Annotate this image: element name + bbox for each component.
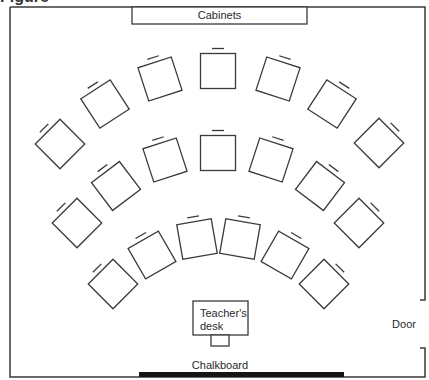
teachers-desk-label-1: Teacher's bbox=[200, 307, 247, 319]
desk-surface bbox=[334, 198, 383, 247]
desk-surface bbox=[299, 259, 348, 308]
chalkboard-label: Chalkboard bbox=[192, 359, 248, 371]
student-desk-back-7 bbox=[354, 115, 407, 168]
student-desks bbox=[32, 49, 408, 309]
student-desk-back-6 bbox=[308, 76, 359, 129]
chair-mark bbox=[98, 164, 108, 171]
desk-surface bbox=[88, 259, 137, 308]
desk-surface bbox=[295, 161, 344, 210]
student-desk-middle-6 bbox=[295, 157, 347, 210]
cabinets: Cabinets bbox=[132, 7, 307, 24]
desk-surface bbox=[249, 138, 293, 182]
teachers-desk-label-2: desk bbox=[200, 320, 224, 332]
student-desk-front-5 bbox=[261, 227, 311, 279]
chair-mark bbox=[279, 56, 290, 60]
desk-surface bbox=[52, 198, 101, 247]
chair-mark bbox=[187, 216, 199, 218]
chair-mark bbox=[291, 233, 301, 239]
desk-surface bbox=[81, 80, 129, 128]
desk-surface bbox=[354, 118, 403, 167]
teachers-chair bbox=[211, 335, 229, 346]
chair-mark bbox=[136, 233, 146, 239]
desk-surface bbox=[201, 54, 236, 89]
student-desk-back-2 bbox=[78, 76, 129, 129]
desk-surface bbox=[261, 231, 309, 279]
student-desk-front-2 bbox=[126, 227, 176, 279]
chair-mark bbox=[152, 137, 163, 141]
student-desk-back-4 bbox=[201, 49, 236, 89]
chair-mark bbox=[329, 164, 339, 171]
student-desk-middle-2 bbox=[88, 157, 140, 210]
desk-surface bbox=[138, 57, 182, 101]
chair-mark bbox=[93, 264, 101, 272]
chair-mark bbox=[336, 264, 344, 272]
door-label: Door bbox=[392, 318, 416, 330]
desk-surface bbox=[177, 219, 218, 260]
student-desk-middle-4 bbox=[201, 131, 236, 171]
desk-surface bbox=[308, 80, 356, 128]
student-desk-front-6 bbox=[299, 256, 352, 309]
student-desk-front-3 bbox=[176, 214, 217, 259]
chair-mark bbox=[391, 123, 399, 131]
chair-mark bbox=[238, 216, 250, 218]
student-desk-middle-5 bbox=[249, 133, 295, 182]
chair-mark bbox=[147, 56, 158, 60]
desk-surface bbox=[143, 138, 187, 182]
desk-surface bbox=[91, 161, 140, 210]
classroom-floor-plan: Cabinets Teacher's desk Door Chalkboard bbox=[0, 0, 429, 380]
chair-mark bbox=[88, 82, 98, 89]
chair-mark bbox=[57, 203, 65, 211]
chair-mark bbox=[339, 82, 349, 89]
desk-surface bbox=[35, 119, 84, 168]
desk-surface bbox=[256, 57, 300, 101]
chalkboard-bar bbox=[139, 372, 344, 377]
chair-mark bbox=[371, 203, 379, 211]
teachers-desk: Teacher's desk bbox=[193, 301, 248, 346]
student-desk-middle-3 bbox=[141, 133, 187, 182]
chalkboard: Chalkboard bbox=[139, 359, 344, 377]
cabinets-label: Cabinets bbox=[198, 9, 242, 21]
student-desk-front-1 bbox=[85, 256, 138, 309]
desk-surface bbox=[128, 231, 176, 279]
student-desk-back-5 bbox=[256, 52, 302, 101]
desk-surface bbox=[201, 136, 236, 171]
student-desk-back-1 bbox=[32, 116, 85, 169]
chair-mark bbox=[272, 137, 283, 141]
student-desk-middle-1 bbox=[49, 195, 102, 248]
student-desk-middle-7 bbox=[334, 195, 387, 248]
student-desk-front-4 bbox=[220, 214, 261, 259]
student-desk-back-3 bbox=[136, 52, 182, 101]
desk-surface bbox=[220, 219, 261, 260]
chair-mark bbox=[40, 124, 48, 132]
